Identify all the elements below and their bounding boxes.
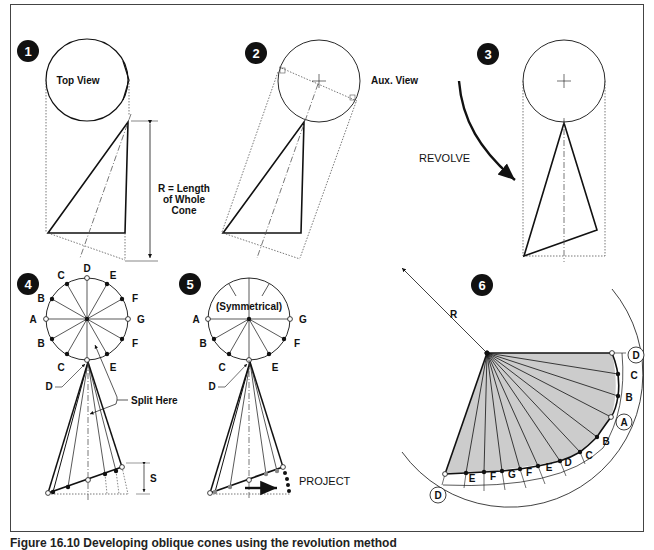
point-f-top: F <box>132 293 138 304</box>
point-d-top: D <box>83 263 90 274</box>
s5-point-d: D <box>208 381 215 392</box>
point-f-bottom: F <box>132 338 138 349</box>
s5-point-g: G <box>299 314 307 325</box>
step-5: 5 (Symmetrical) A G B F C E D <box>179 273 351 500</box>
cone-front-view-2 <box>223 122 304 233</box>
step-3: 3 REVOLVE <box>419 40 605 262</box>
point-g: G <box>137 314 145 325</box>
edge-label-e: E <box>469 473 476 484</box>
point-c-top: C <box>57 270 64 281</box>
edge-label-d2: D <box>564 457 571 468</box>
edge-label-f: F <box>490 471 496 482</box>
symmetrical-label: (Symmetrical) <box>216 301 282 312</box>
s5-point-e: E <box>272 362 279 373</box>
r-length-label-line2: of Whole <box>163 194 206 205</box>
edge-label-d-start: D <box>632 350 639 361</box>
edge-label-e2: E <box>546 462 553 473</box>
edge-label-c: C <box>630 370 637 381</box>
revolve-label: REVOLVE <box>419 152 470 164</box>
s5-point-b: B <box>199 338 206 349</box>
step-3-number: 3 <box>484 47 491 62</box>
r-length-label-line1: R = Length <box>158 183 210 194</box>
point-e-top: E <box>110 270 117 281</box>
step-2: 2 Aux. View <box>222 40 418 259</box>
s5-point-f: F <box>294 338 300 349</box>
edge-label-g: G <box>508 469 516 480</box>
revolve-arrow-icon <box>459 81 515 180</box>
aux-view-label: Aux. View <box>371 75 418 86</box>
r-length-label-line3: Cone <box>172 205 197 216</box>
project-label: PROJECT <box>299 475 351 487</box>
top-view-label: Top View <box>57 75 100 86</box>
split-here-label: Split Here <box>131 395 178 406</box>
cone-front-view <box>48 122 128 233</box>
edge-label-b: B <box>625 392 632 403</box>
point-a: A <box>29 314 36 325</box>
step-6: 6 R <box>402 268 644 507</box>
edge-label-a: A <box>620 417 627 428</box>
s-dimension-label: S <box>150 473 157 484</box>
step-4: 4 D C E B F A G B F C E D <box>17 263 178 500</box>
step-2-number: 2 <box>252 46 259 61</box>
edge-label-d-end: D <box>434 490 441 501</box>
step-6-number: 6 <box>478 278 485 293</box>
s5-point-a: A <box>192 314 199 325</box>
step-1-number: 1 <box>24 44 31 59</box>
s5-point-c: C <box>218 362 225 373</box>
step-1: 1 Top View R = Length of Whole Cone <box>17 39 210 261</box>
revolved-cone <box>524 123 597 256</box>
step-4-number: 4 <box>24 277 32 292</box>
r-radius-label: R <box>450 309 458 320</box>
point-e-bottom: E <box>110 362 117 373</box>
figure-caption: Figure 16.10 Developing oblique cones us… <box>10 536 397 550</box>
step-5-number: 5 <box>186 277 193 292</box>
edge-label-c2: C <box>585 450 592 461</box>
edge-label-b2: B <box>602 436 609 447</box>
point-b-bottom: B <box>37 338 44 349</box>
point-c-bottom: C <box>57 362 64 373</box>
point-d-apex: D <box>45 381 52 392</box>
point-b-top: B <box>37 293 44 304</box>
edge-label-f2: F <box>526 467 532 478</box>
